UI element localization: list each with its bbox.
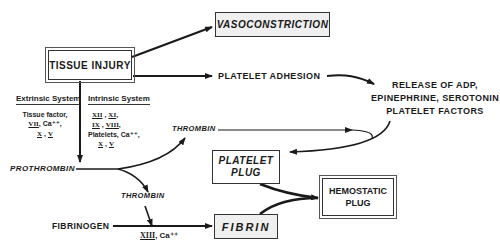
release-line-3: PLATELET FACTORS xyxy=(370,105,500,118)
arrow-prothrombin-to-thrombin-lower xyxy=(118,169,148,192)
tissue-injury-label: TISSUE INJURY xyxy=(49,60,131,71)
release-factors-label: RELEASE OF ADP, EPINEPHRINE, SEROTONIN P… xyxy=(370,79,500,118)
platelet-plug-box: PLATELET PLUG xyxy=(212,150,280,184)
fibrin-cofactors: XIII, Ca⁺⁺ xyxy=(140,231,178,240)
intrinsic-title: Intrinsic System xyxy=(88,94,150,105)
release-line-1: RELEASE OF ADP, xyxy=(370,79,500,92)
thrombin-lower-label: THROMBIN xyxy=(121,191,165,200)
prothrombin-label: PROTHROMBIN xyxy=(10,164,75,173)
factor-vii: VII xyxy=(28,120,39,128)
arrow-release-to-platelet-plug xyxy=(290,121,390,152)
extrinsic-system: Extrinsic System Tissue factor, VII, Ca⁺… xyxy=(16,87,74,139)
arrow-platelet-plug-to-hemostatic xyxy=(260,184,318,198)
fibrinogen-label: FIBRINOGEN xyxy=(52,221,109,231)
hemostatic-plug-line-2: PLUG xyxy=(345,197,370,209)
intrinsic-system: Intrinsic System XII , XI, IX , VIII, Pl… xyxy=(88,87,148,149)
platelet-plug-line-1: PLATELET xyxy=(219,155,274,167)
release-line-2: EPINEPHRINE, SEROTONIN xyxy=(370,92,500,105)
platelet-adhesion-label: PLATELET ADHESION xyxy=(218,71,320,81)
arrow-adhesion-to-release xyxy=(327,75,374,84)
vasoconstriction-label: VASOCONSTRICTION xyxy=(217,19,329,30)
vasoconstriction-box: VASOCONSTRICTION xyxy=(215,12,330,37)
platelet-plug-line-2: PLUG xyxy=(231,167,261,179)
factor-xiii: XIII xyxy=(140,231,155,240)
arrow-fibrin-to-hemostatic xyxy=(260,198,318,214)
fibrin-box: FIBRIN xyxy=(214,214,278,239)
extrinsic-title: Extrinsic System xyxy=(16,94,80,105)
fibrin-label: FIBRIN xyxy=(222,221,271,233)
extrinsic-line-1: Tissue factor, xyxy=(16,110,74,119)
arrow-thrombin-to-fibrin-reaction xyxy=(145,206,152,226)
hemostatic-plug-box: HEMOSTATIC PLUG xyxy=(322,178,394,216)
thrombin-upper-label: THROMBIN xyxy=(172,124,216,133)
factor-v: V xyxy=(48,130,53,138)
tissue-injury-box: TISSUE INJURY xyxy=(48,50,132,80)
hemostatic-plug-line-1: HEMOSTATIC xyxy=(329,185,387,197)
arrow-injury-to-vasoconstriction xyxy=(132,27,212,57)
